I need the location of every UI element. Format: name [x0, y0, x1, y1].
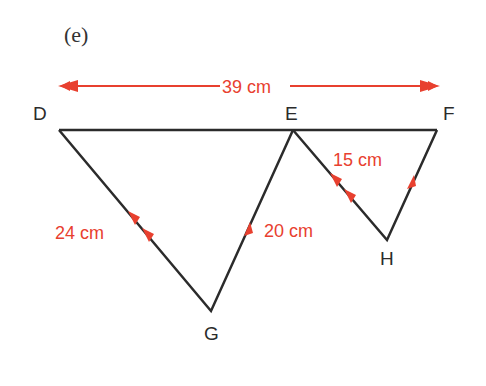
arrowhead-right-icon	[420, 80, 440, 92]
diagram-canvas: (e) 39 cm D E F G H 24 cm 20 cm 15 cm	[0, 0, 486, 386]
part-label: (e)	[64, 22, 88, 47]
vertex-F: F	[443, 103, 455, 124]
vertex-G: G	[204, 323, 219, 344]
measure-EH: 15 cm	[333, 150, 382, 170]
triangle-diagram: (e) 39 cm D E F G H 24 cm 20 cm 15 cm	[0, 0, 486, 386]
vertex-H: H	[380, 248, 394, 269]
arrowhead-left-icon	[58, 80, 78, 92]
measure-DF: 39 cm	[222, 77, 271, 97]
measure-DG: 24 cm	[55, 223, 104, 243]
vertex-D: D	[33, 103, 47, 124]
vertex-E: E	[285, 103, 298, 124]
measure-EG: 20 cm	[264, 221, 313, 241]
